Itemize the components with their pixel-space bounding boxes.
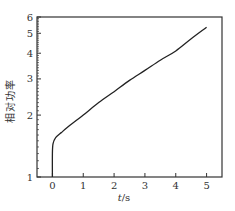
x-axis-title-unit: /s <box>122 192 131 203</box>
x-tick-label: 0 <box>49 180 55 191</box>
y-tick-label: 3 <box>27 73 33 84</box>
y-tick-label: 2 <box>27 110 33 121</box>
x-tick-label: 3 <box>142 180 148 191</box>
x-tick-label: 5 <box>203 180 209 191</box>
x-tick-label: 2 <box>111 180 117 191</box>
x-tick-label: 1 <box>80 180 86 191</box>
y-tick-label: 4 <box>27 48 33 59</box>
chart-canvas: 123456 012345 相对功率 t/s <box>0 0 235 211</box>
x-tick-label: 4 <box>173 180 179 191</box>
y-tick-label: 5 <box>27 28 33 39</box>
y-axis-title: 相对功率 <box>4 79 16 123</box>
y-tick-label: 1 <box>27 172 33 183</box>
x-axis-title: t/s <box>118 192 131 203</box>
y-tick-label: 6 <box>27 12 33 23</box>
